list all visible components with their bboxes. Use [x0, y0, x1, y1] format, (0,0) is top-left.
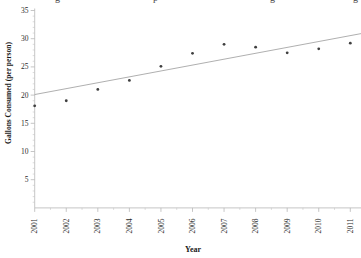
x-tick-label: 2004 — [125, 218, 134, 233]
data-point — [223, 43, 226, 46]
data-point — [128, 79, 131, 82]
x-tick-label: 2009 — [283, 218, 292, 233]
x-tick-label: 2005 — [157, 218, 166, 233]
y-tick-label: 20 — [21, 91, 29, 100]
data-point — [317, 47, 320, 50]
x-tick-label: 2003 — [93, 218, 102, 233]
y-tick-label: 5 — [25, 175, 29, 184]
trend-line — [35, 34, 361, 95]
x-axis-title: Year — [185, 245, 201, 254]
chart-canvas: 5101520253035200120022003200420052006200… — [0, 0, 361, 258]
scatter-plot-figure: gpgg 51015202530352001200220032004200520… — [0, 0, 361, 258]
y-tick-label: 10 — [21, 147, 29, 156]
y-tick-label: 15 — [21, 119, 29, 128]
x-tick-label: 2001 — [30, 218, 39, 233]
x-tick-label: 2006 — [188, 218, 197, 233]
data-point — [191, 52, 194, 55]
data-point — [286, 51, 289, 54]
y-tick-label: 35 — [21, 6, 29, 15]
y-tick-label: 30 — [21, 34, 29, 43]
data-point — [65, 99, 68, 102]
x-tick-label: 2008 — [251, 218, 260, 233]
data-point — [33, 104, 36, 107]
x-tick-label: 2002 — [62, 218, 71, 233]
data-point — [160, 65, 163, 68]
data-point — [349, 42, 352, 45]
y-tick-label: 25 — [21, 62, 29, 71]
y-axis-title: Gallons Consumed (per person) — [4, 42, 13, 144]
x-tick-label: 2007 — [220, 218, 229, 233]
x-tick-label: 2010 — [314, 218, 323, 233]
data-point — [254, 46, 257, 49]
data-point — [96, 88, 99, 91]
x-tick-label: 2011 — [346, 218, 355, 233]
